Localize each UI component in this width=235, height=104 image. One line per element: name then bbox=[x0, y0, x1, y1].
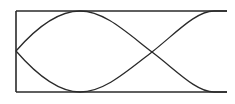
mode-curves bbox=[16, 11, 227, 92]
standing-wave-diagram bbox=[0, 0, 235, 104]
lower-displacement-curve bbox=[16, 11, 227, 92]
